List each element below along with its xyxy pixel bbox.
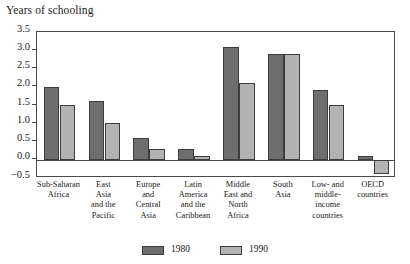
x-axis-label-line: Pacific — [81, 211, 126, 221]
chart-legend: 19801990 — [0, 243, 410, 257]
bar-1990-3 — [149, 149, 165, 160]
x-axis-label-line: OECD — [350, 180, 395, 190]
x-axis-label-line: countries — [350, 190, 395, 200]
bar-1980-3 — [133, 138, 149, 160]
bar-1990-7 — [329, 105, 345, 160]
x-axis-label-line: and the — [81, 200, 126, 210]
bar-1980-1 — [44, 87, 60, 160]
bar-1990-8 — [374, 160, 390, 175]
x-axis-category-labels: Sub-SaharanAfricaEastAsiaand thePacificE… — [36, 180, 395, 236]
bar-1990-1 — [60, 105, 76, 160]
x-axis-label-line: Caribbean — [171, 211, 216, 221]
bar-1980-5 — [223, 47, 239, 160]
x-axis-label-line: Low- and — [305, 180, 350, 190]
legend-entry-1990: 1990 — [220, 245, 268, 255]
plot-area — [37, 32, 394, 176]
legend-swatch-1980 — [142, 246, 164, 255]
x-axis-label: SouthAsia — [260, 180, 305, 200]
bar-1980-6 — [268, 54, 284, 160]
x-axis-label-line: East and — [216, 190, 261, 200]
y-axis-tick-label: 0.5 — [17, 133, 30, 144]
y-axis-tick-label: 2.0 — [17, 78, 30, 89]
bar-1980-4 — [178, 149, 194, 160]
y-axis-tick-label: 3.5 — [17, 24, 30, 35]
x-axis-label-line: and — [126, 190, 171, 200]
x-axis-label: EastAsiaand thePacific — [81, 180, 126, 221]
x-axis-label: MiddleEast andNorthAfrica — [216, 180, 261, 221]
x-axis-label-line: countries — [305, 211, 350, 221]
y-axis-tick-label: 0.0 — [17, 151, 30, 162]
x-axis-label: Sub-SaharanAfrica — [36, 180, 81, 200]
y-axis-tick-label: 3.0 — [17, 42, 30, 53]
y-axis-tick-label: −0.5 — [11, 170, 30, 181]
x-axis-label-line: middle- — [305, 190, 350, 200]
legend-label-1980: 1980 — [171, 245, 190, 255]
zero-baseline — [37, 160, 394, 161]
x-axis-label-line: Africa — [36, 190, 81, 200]
bar-1990-2 — [105, 123, 121, 160]
x-axis-label-line: North — [216, 200, 261, 210]
chart-axis-title: Years of schooling — [6, 4, 94, 16]
x-axis-label-line: income — [305, 200, 350, 210]
x-axis-label-line: Asia — [126, 211, 171, 221]
bar-1980-7 — [313, 90, 329, 159]
chart-figure: Years of schooling 3.53.02.52.01.51.00.5… — [0, 0, 410, 264]
x-axis-label-line: America — [171, 190, 216, 200]
y-axis-tick-label: 2.5 — [17, 60, 30, 71]
plot-frame — [36, 31, 395, 177]
x-axis-label: OECDcountries — [350, 180, 395, 200]
legend-swatch-1990 — [220, 246, 242, 255]
x-axis-label-line: Asia — [260, 190, 305, 200]
y-axis: 3.53.02.52.01.51.00.50.0−0.5 — [0, 31, 36, 177]
legend-label-1990: 1990 — [249, 245, 268, 255]
x-axis-label-line: Asia — [81, 190, 126, 200]
legend-entry-1980: 1980 — [142, 245, 190, 255]
y-axis-tick-label: 1.0 — [17, 115, 30, 126]
x-axis-label-line: South — [260, 180, 305, 190]
x-axis-label-line: Central — [126, 200, 171, 210]
x-axis-label: LatinAmericaand theCaribbean — [171, 180, 216, 221]
y-axis-tick-label: 1.5 — [17, 97, 30, 108]
bar-1980-2 — [89, 101, 105, 159]
x-axis-label: Low- andmiddle-incomecountries — [305, 180, 350, 221]
x-axis-label-line: East — [81, 180, 126, 190]
bar-1980-8 — [358, 156, 374, 160]
x-axis-label-line: Middle — [216, 180, 261, 190]
x-axis-label-line: Africa — [216, 211, 261, 221]
x-axis-label-line: Europe — [126, 180, 171, 190]
bar-1990-6 — [284, 54, 300, 160]
x-axis-label-line: Latin — [171, 180, 216, 190]
x-axis-label-line: and the — [171, 200, 216, 210]
x-axis-label: EuropeandCentralAsia — [126, 180, 171, 221]
bar-1990-4 — [194, 156, 210, 160]
x-axis-label-line: Sub-Saharan — [36, 180, 81, 190]
bar-1990-5 — [239, 83, 255, 160]
